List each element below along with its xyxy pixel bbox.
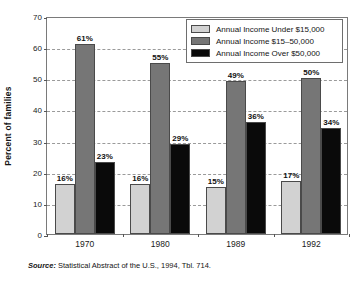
x-axis-tick-mark <box>198 234 199 237</box>
bar-value-label: 23% <box>97 153 113 161</box>
medium-gray-swatch <box>191 37 210 45</box>
bar-value-label: 15% <box>208 178 224 186</box>
x-axis-tick-label: 1980 <box>151 240 170 249</box>
bar-value-label: 61% <box>77 35 93 43</box>
y-axis-tick-label: 30 <box>33 139 42 147</box>
x-axis-tick-mark <box>123 234 124 237</box>
bar[interactable]: 55% <box>150 63 170 234</box>
bar-value-label: 36% <box>248 113 264 121</box>
light-gray-swatch <box>191 25 210 33</box>
legend-item-label: Annual Income $15–50,000 <box>216 37 314 46</box>
bar-value-label: 49% <box>228 72 244 80</box>
chart-legend: Annual Income Under $15,000 Annual Incom… <box>186 19 343 63</box>
source-note: Source: Statistical Abstract of the U.S.… <box>28 261 211 270</box>
bar[interactable]: 50% <box>301 78 321 234</box>
y-axis-tick-label: 70 <box>33 14 42 22</box>
legend-item-label: Annual Income Under $15,000 <box>216 25 325 34</box>
bar[interactable]: 34% <box>321 128 341 234</box>
bar[interactable]: 29% <box>170 144 190 234</box>
bar-value-label: 16% <box>132 175 148 183</box>
bar[interactable]: 17% <box>281 181 301 234</box>
bar[interactable]: 16% <box>55 184 75 234</box>
x-axis-tick-label: 1970 <box>75 240 94 249</box>
bar-value-label: 17% <box>283 172 299 180</box>
y-axis-tick-label: 0 <box>38 232 42 240</box>
bar-group-bars: 16%61%23%1970 <box>47 18 123 234</box>
chart-figure: Percent of families 010203040506070 16%6… <box>0 0 364 283</box>
legend-item-1[interactable]: Annual Income $15–50,000 <box>191 35 338 47</box>
bar-group: 16%61%23%1970 <box>47 18 123 234</box>
x-axis-tick-label: 1992 <box>302 240 321 249</box>
y-axis-tick-label: 60 <box>33 45 42 53</box>
bar-value-label: 16% <box>57 175 73 183</box>
source-prefix: Source: <box>28 261 56 270</box>
y-axis-tick-label: 40 <box>33 107 42 115</box>
x-axis-tick-mark <box>47 234 48 237</box>
bar-value-label: 29% <box>172 135 188 143</box>
y-axis-tick-label: 10 <box>33 201 42 209</box>
legend-item-0[interactable]: Annual Income Under $15,000 <box>191 23 338 35</box>
bar-value-label: 34% <box>323 119 339 127</box>
bar[interactable]: 15% <box>206 187 226 234</box>
bar-value-label: 50% <box>303 69 319 77</box>
bar[interactable]: 49% <box>226 81 246 234</box>
x-axis-tick-mark <box>274 234 275 237</box>
bar[interactable]: 61% <box>75 44 95 234</box>
bar[interactable]: 23% <box>95 162 115 234</box>
x-axis-tick-mark <box>349 234 350 237</box>
y-axis-tick-label: 50 <box>33 76 42 84</box>
x-axis-tick-label: 1989 <box>226 240 245 249</box>
bar[interactable]: 36% <box>246 122 266 234</box>
legend-item-2[interactable]: Annual Income Over $50,000 <box>191 47 338 59</box>
legend-item-label: Annual Income Over $50,000 <box>216 49 320 58</box>
bar[interactable]: 16% <box>130 184 150 234</box>
y-axis-title: Percent of families <box>3 86 13 165</box>
y-axis-tick-label: 20 <box>33 170 42 178</box>
bar-value-label: 55% <box>152 54 168 62</box>
source-text: Statistical Abstract of the U.S., 1994, … <box>56 261 211 270</box>
black-swatch <box>191 49 210 57</box>
